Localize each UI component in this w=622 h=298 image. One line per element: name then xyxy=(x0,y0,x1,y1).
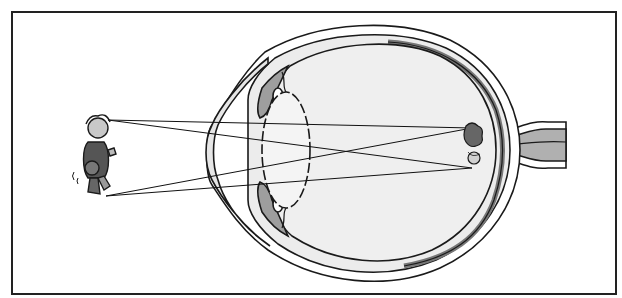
lens xyxy=(262,92,310,208)
diagram-canvas xyxy=(0,0,622,298)
